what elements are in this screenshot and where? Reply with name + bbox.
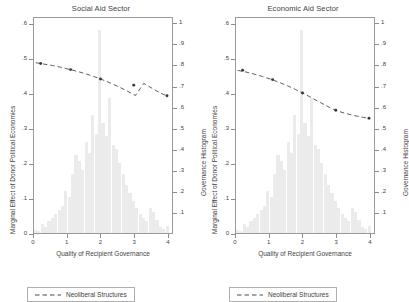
y-axis-right-tick-label: .7 — [179, 83, 184, 89]
y-axis-left-title: Marginal Effect of Donor Political Econo… — [211, 106, 218, 234]
y-axis-right-tick-label: .9 — [381, 40, 386, 46]
curve-marker-point — [166, 94, 169, 97]
y-axis-right-tick-mark — [173, 87, 177, 88]
x-axis-tick-label: 2 — [90, 239, 110, 245]
y-axis-right-tick-mark — [375, 150, 379, 151]
x-axis-tick-label: 0 — [23, 239, 43, 245]
y-axis-right-tick-label: .9 — [179, 40, 184, 46]
y-axis-right-tick-mark — [375, 108, 379, 109]
y-axis-right-tick-mark — [375, 44, 379, 45]
y-axis-right-tick-mark — [173, 108, 177, 109]
y-axis-right-tick-mark — [173, 44, 177, 45]
x-axis-tick-mark — [100, 234, 101, 238]
y-axis-left-tick-mark — [231, 59, 235, 60]
y-axis-left-tick-label: .5 — [202, 55, 229, 61]
legend-dashed-line-icon — [35, 292, 61, 298]
y-axis-left-tick-mark — [231, 164, 235, 165]
x-axis-tick-label: 4 — [360, 239, 380, 245]
x-axis-tick-mark — [168, 234, 169, 238]
legend-label: Neoliberal Structures — [66, 291, 127, 298]
curve-marker-point — [132, 84, 135, 87]
y-axis-right-tick-label: .4 — [381, 146, 386, 152]
y-axis-right-tick-mark — [173, 23, 177, 24]
x-axis-tick-mark — [235, 234, 236, 238]
curve-marker-point — [69, 68, 72, 71]
x-axis-tick-mark — [134, 234, 135, 238]
y-axis-right-tick-label: .1 — [381, 209, 386, 215]
plot-area — [33, 17, 173, 234]
curve-marker-point — [271, 78, 274, 81]
y-axis-left-tick-mark — [231, 24, 235, 25]
y-axis-right-tick-mark — [173, 192, 177, 193]
neoliberal-structures-curve — [34, 18, 172, 233]
plot-area — [235, 17, 375, 234]
y-axis-right-tick-mark — [173, 213, 177, 214]
y-axis-right-tick-label: 1 — [179, 19, 182, 25]
y-axis-right-tick-label: .4 — [179, 146, 184, 152]
y-axis-left-tick-mark — [231, 199, 235, 200]
y-axis-right-tick-label: .5 — [381, 125, 386, 131]
curve-marker-point — [99, 77, 102, 80]
y-axis-right-tick-label: .8 — [381, 61, 386, 67]
x-axis-tick-label: 1 — [259, 239, 279, 245]
x-axis-tick-label: 0 — [225, 239, 245, 245]
y-axis-left-tick-mark — [231, 129, 235, 130]
legend-label: Neoliberal Structures — [268, 291, 329, 298]
y-axis-right-tick-label: .2 — [381, 188, 386, 194]
y-axis-right-tick-mark — [173, 171, 177, 172]
legend: Neoliberal Structures — [229, 287, 337, 302]
curve-marker-point — [241, 69, 244, 72]
y-axis-left-tick-label: .6 — [202, 20, 229, 26]
y-axis-right-tick-mark — [375, 213, 379, 214]
legend-dashed-line-icon — [237, 292, 263, 298]
y-axis-right-tick-mark — [173, 65, 177, 66]
x-axis-tick-mark — [336, 234, 337, 238]
y-axis-right-tick-label: .1 — [179, 209, 184, 215]
y-axis-right-tick-mark — [173, 129, 177, 130]
y-axis-right-tick-label: .5 — [179, 125, 184, 131]
curve-marker-point — [368, 117, 371, 120]
curve-marker-point — [39, 62, 42, 65]
x-axis-tick-label: 2 — [292, 239, 312, 245]
x-axis-tick-mark — [302, 234, 303, 238]
x-axis-title: Quality of Recipient Governance — [235, 250, 375, 257]
y-axis-left-tick-mark — [29, 94, 33, 95]
y-axis-right-title: Governance Histogram — [402, 129, 409, 196]
y-axis-right-tick-label: .3 — [381, 167, 386, 173]
y-axis-right-tick-mark — [375, 129, 379, 130]
x-axis-tick-mark — [370, 234, 371, 238]
y-axis-left-tick-label: .4 — [0, 90, 27, 96]
x-axis-tick-label: 3 — [124, 239, 144, 245]
y-axis-right-tick-label: .7 — [381, 83, 386, 89]
y-axis-right-tick-label: .6 — [179, 104, 184, 110]
y-axis-right-tick-mark — [375, 23, 379, 24]
y-axis-left-tick-mark — [29, 129, 33, 130]
curve-marker-point — [334, 109, 337, 112]
y-axis-right-tick-mark — [375, 171, 379, 172]
y-axis-right-tick-mark — [375, 87, 379, 88]
x-axis-title: Quality of Recipient Governance — [33, 250, 173, 257]
y-axis-left-tick-label: .4 — [202, 90, 229, 96]
y-axis-right-tick-label: .6 — [381, 104, 386, 110]
x-axis-tick-label: 1 — [57, 239, 77, 245]
x-axis-tick-mark — [67, 234, 68, 238]
y-axis-left-tick-label: .5 — [0, 55, 27, 61]
y-axis-left-tick-mark — [29, 164, 33, 165]
x-axis-tick-mark — [33, 234, 34, 238]
y-axis-right-tick-label: .3 — [179, 167, 184, 173]
legend: Neoliberal Structures — [27, 287, 135, 302]
panel-title: Economic Aid Sector — [202, 4, 404, 13]
chart-panel-left: Social Aid Sector.6.5.4.3.2.101.9.8.7.6.… — [0, 0, 202, 294]
y-axis-right-tick-mark — [375, 192, 379, 193]
y-axis-left-title: Marginal Effect of Donor Political Econo… — [9, 106, 16, 234]
y-axis-left-tick-mark — [29, 199, 33, 200]
x-axis-tick-label: 4 — [158, 239, 178, 245]
y-axis-left-tick-mark — [231, 94, 235, 95]
y-axis-left-tick-mark — [29, 24, 33, 25]
chart-panel-right: Economic Aid Sector.6.5.4.3.2.101.9.8.7.… — [202, 0, 404, 294]
x-axis-tick-label: 3 — [326, 239, 346, 245]
y-axis-left-tick-label: .6 — [0, 20, 27, 26]
x-axis-tick-mark — [269, 234, 270, 238]
panel-title: Social Aid Sector — [0, 4, 202, 13]
